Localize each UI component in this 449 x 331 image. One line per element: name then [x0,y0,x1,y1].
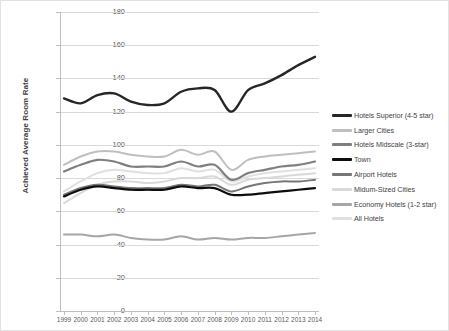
series-line [64,57,315,112]
legend-label: Town [354,155,371,164]
x-axis-line [60,311,319,312]
x-axis-tick-mark [282,312,283,315]
chart-figure: Achieved Average Room Rate 0204060801001… [0,0,449,331]
x-axis-tick-mark [265,312,266,315]
legend-label: Economy Hotels (1-2 star) [354,200,436,209]
legend-swatch [332,158,352,161]
x-axis-tick-mark [164,312,165,315]
y-axis-title: Achieved Average Room Rate [21,66,30,206]
x-axis-tick-mark [248,312,249,315]
legend-swatch [332,129,352,132]
legend-item[interactable]: Airport Hotels [332,167,448,182]
legend-item[interactable]: Midum-Sized Cities [332,182,448,197]
legend-swatch [332,143,352,146]
legend-label: Airport Hotels [354,170,397,179]
legend-swatch [332,203,352,206]
legend-item[interactable]: Larger Cities [332,123,448,138]
legend-item[interactable]: Economy Hotels (1-2 star) [332,197,448,212]
x-axis-tick-mark [114,312,115,315]
series-line [64,233,315,240]
plot-area [60,12,319,311]
x-axis-tick-mark [181,312,182,315]
x-axis-tick-mark [148,312,149,315]
x-axis-tick-mark [198,312,199,315]
x-axis-tick-mark [215,312,216,315]
legend-swatch [332,188,352,191]
legend-swatch [332,173,352,176]
x-axis-tick-mark [81,312,82,315]
series-lines [60,12,319,311]
legend: Hotels Superior (4-5 star)Larger CitiesH… [332,108,448,226]
legend-label: Midum-Sized Cities [354,185,415,194]
x-axis-tick-label: 2014 [302,316,328,323]
x-axis-tick-mark [97,312,98,315]
legend-label: Hotels Midscale (3-star) [354,140,429,149]
legend-item[interactable]: Hotels Superior (4-5 star) [332,108,448,123]
legend-swatch [332,114,352,117]
x-axis-tick-mark [64,312,65,315]
legend-label: All Hotels [354,214,384,223]
legend-swatch [332,217,352,220]
legend-item[interactable]: Hotels Midscale (3-star) [332,138,448,153]
x-axis-tick-mark [231,312,232,315]
series-line [64,186,315,196]
legend-item[interactable]: Town [332,152,448,167]
x-axis-tick-mark [131,312,132,315]
x-axis-tick-mark [315,312,316,315]
legend-label: Hotels Superior (4-5 star) [354,111,433,120]
x-axis-tick-mark [298,312,299,315]
legend-label: Larger Cities [354,126,394,135]
legend-item[interactable]: All Hotels [332,212,448,227]
